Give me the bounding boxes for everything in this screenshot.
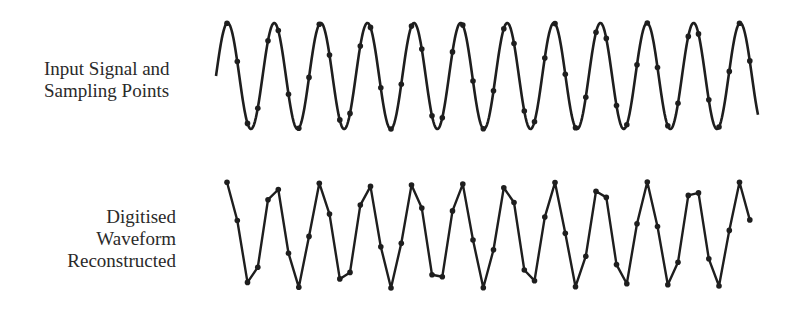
reconstructed-point — [593, 189, 599, 195]
sample-point — [337, 117, 343, 123]
sample-point — [532, 119, 538, 125]
reconstructed-point — [645, 179, 651, 185]
sample-point — [245, 121, 251, 127]
reconstructed-point — [604, 195, 610, 201]
sample-point — [737, 21, 743, 27]
sample-point — [727, 69, 733, 75]
sample-point — [286, 91, 292, 97]
sample-point — [224, 20, 230, 26]
sample-point — [716, 124, 722, 130]
reconstructed-point — [378, 244, 384, 250]
reconstructed-point — [224, 179, 230, 185]
sample-point — [686, 34, 692, 40]
reconstructed-point — [686, 193, 692, 199]
reconstructed-point — [747, 217, 753, 223]
sample-point — [235, 59, 241, 65]
sample-point — [501, 26, 507, 32]
reconstructed-point — [675, 259, 681, 265]
sample-point — [634, 62, 640, 68]
sample-point — [450, 49, 456, 55]
sample-point — [460, 22, 466, 28]
reconstructed-point — [460, 181, 466, 187]
sample-point — [440, 115, 446, 121]
reconstructed-point — [563, 230, 569, 236]
reconstructed-point — [470, 237, 476, 243]
reconstructed-point — [450, 208, 456, 214]
reconstructed-point — [440, 274, 446, 280]
sample-point — [563, 71, 569, 77]
sample-point — [419, 46, 425, 52]
reconstructed-point — [337, 276, 343, 282]
sample-point — [388, 126, 394, 132]
sample-point — [306, 75, 312, 81]
reconstructed-point — [614, 262, 620, 268]
sampling-diagram — [0, 0, 793, 315]
reconstructed-point — [542, 214, 548, 220]
reconstructed-point — [409, 182, 415, 188]
reconstructed-point — [696, 190, 702, 196]
sample-point — [583, 94, 589, 100]
reconstructed-point — [399, 240, 405, 246]
sample-point — [675, 100, 681, 106]
sample-point — [491, 88, 497, 94]
sample-point — [747, 58, 753, 64]
sample-point — [409, 23, 415, 29]
reconstructed-polyline — [227, 182, 750, 288]
reconstructed-point — [306, 234, 312, 240]
sample-point — [470, 78, 476, 84]
reconstructed-point — [634, 221, 640, 227]
reconstructed-point — [522, 267, 528, 273]
reconstructed-point — [296, 285, 302, 291]
reconstructed-point — [368, 184, 374, 190]
reconstructed-point — [317, 180, 323, 186]
reconstructed-point — [716, 283, 722, 289]
reconstructed-point — [727, 228, 733, 234]
sample-point — [573, 125, 579, 131]
reconstructed-point — [583, 253, 589, 259]
sample-point — [624, 122, 630, 128]
sample-point — [604, 36, 610, 42]
sample-point — [696, 31, 702, 37]
reconstructed-point — [573, 284, 579, 290]
sample-point — [429, 113, 435, 119]
reconstructed-point — [388, 285, 394, 291]
sample-point — [665, 123, 671, 129]
reconstructed-point — [532, 278, 538, 284]
sample-point — [614, 103, 620, 109]
sample-point — [593, 30, 599, 36]
reconstructed-point — [255, 264, 261, 270]
reconstructed-point — [737, 180, 743, 186]
sample-point — [481, 126, 487, 132]
sample-point — [368, 25, 374, 31]
reconstructed-point — [655, 224, 661, 230]
reconstructed-point — [501, 185, 507, 191]
sample-point — [522, 108, 528, 114]
reconstructed-point — [358, 202, 364, 208]
input-sine-wave — [216, 23, 758, 129]
reconstructed-point — [245, 280, 251, 286]
input-sine-path — [216, 23, 758, 129]
reconstructed-point — [624, 281, 630, 287]
sample-point — [655, 65, 661, 71]
sample-point — [358, 43, 364, 49]
sample-point — [276, 28, 282, 34]
reconstructed-point — [327, 211, 333, 217]
sample-point — [327, 52, 333, 58]
reconstructed-point — [481, 285, 487, 291]
reconstructed-waveform — [227, 182, 750, 288]
sample-point — [706, 97, 712, 103]
sample-point — [296, 126, 302, 132]
reconstructed-point — [235, 218, 241, 224]
reconstructed-point — [419, 205, 425, 211]
reconstructed-point — [347, 270, 353, 276]
sample-point — [552, 21, 558, 27]
reconstructed-point — [265, 197, 271, 203]
reconstructed-point — [552, 180, 558, 186]
reconstructed-point — [511, 200, 517, 206]
sample-point — [511, 41, 517, 47]
reconstructed-point — [665, 282, 671, 288]
reconstructed-point — [429, 272, 435, 278]
reconstructed-point — [276, 187, 282, 193]
sample-point — [378, 85, 384, 91]
reconstructed-point — [706, 256, 712, 262]
